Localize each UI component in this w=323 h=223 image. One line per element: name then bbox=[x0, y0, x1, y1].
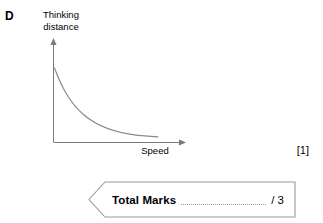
y-axis bbox=[50, 38, 56, 142]
total-marks-out-of: / 3 bbox=[271, 194, 284, 206]
marks-allocation: [1] bbox=[297, 144, 309, 156]
total-marks-label: Total Marks bbox=[112, 194, 176, 206]
y-axis-label-line1: Thinking bbox=[28, 9, 94, 21]
y-axis-label: Thinking distance bbox=[28, 9, 94, 32]
x-axis-label: Speed bbox=[123, 145, 187, 156]
total-marks-blank-field[interactable] bbox=[181, 203, 266, 205]
y-axis-arrowhead-icon bbox=[50, 38, 56, 45]
graph-figure: Thinking distance Speed bbox=[0, 0, 210, 170]
thinking-distance-curve bbox=[55, 68, 159, 137]
y-axis-label-line2: distance bbox=[28, 21, 94, 33]
total-marks-content: Total Marks / 3 bbox=[88, 181, 296, 218]
total-marks-banner: Total Marks / 3 bbox=[88, 181, 296, 218]
exam-question-page: D Thinking distance Speed [1] bbox=[0, 0, 323, 223]
